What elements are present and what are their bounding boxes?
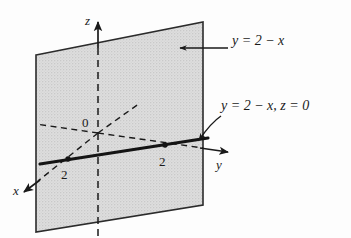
x-intercept-label: 2 (61, 168, 68, 181)
y-axis-label: y (216, 158, 222, 171)
y-intercept-dot (162, 142, 167, 147)
z-axis-label: z (85, 14, 90, 27)
y-intercept-label: 2 (159, 155, 166, 168)
origin-label: 0 (82, 116, 89, 129)
x-intercept-dot (65, 156, 70, 161)
x-axis-label: x (13, 184, 19, 197)
figure-container: z y x 0 2 2 y = 2 − x y = 2 − x, z = 0 (0, 0, 351, 238)
plane-equation-label: y = 2 − x (232, 34, 284, 48)
diagram-canvas (0, 0, 351, 238)
trace-equation-label: y = 2 − x, z = 0 (221, 99, 309, 113)
